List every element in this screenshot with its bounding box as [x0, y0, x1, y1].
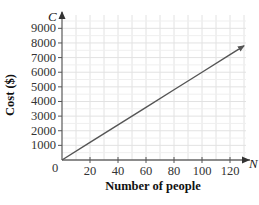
- x-tick-label: 120: [221, 164, 240, 178]
- series-line: [62, 46, 244, 160]
- y-axis-variable: C: [48, 9, 57, 24]
- y-tick-label: 2000: [31, 124, 56, 138]
- y-tick-label: 5000: [31, 80, 56, 94]
- x-axis-variable: N: [248, 156, 259, 171]
- y-axis-title: Cost ($): [3, 74, 17, 116]
- cost-vs-people-chart: 2040608010012010002000300040005000600070…: [0, 0, 259, 205]
- data-series: [62, 46, 244, 160]
- x-tick-label: 20: [84, 164, 97, 178]
- y-tick-label: 1000: [31, 138, 56, 152]
- x-tick-label: 100: [193, 164, 212, 178]
- y-tick-label: 4000: [31, 94, 56, 108]
- x-axis-title: Number of people: [105, 179, 201, 193]
- x-tick-label: 40: [112, 164, 125, 178]
- y-tick-label: 8000: [31, 36, 56, 50]
- x-tick-label: 60: [140, 164, 153, 178]
- origin-label: 0: [52, 161, 58, 175]
- grid-lines: [62, 15, 246, 160]
- y-tick-label: 6000: [31, 65, 56, 79]
- x-tick-label: 80: [168, 164, 181, 178]
- y-axis-arrow-icon: [59, 11, 66, 19]
- y-tick-label: 7000: [31, 51, 56, 65]
- y-tick-label: 3000: [31, 109, 56, 123]
